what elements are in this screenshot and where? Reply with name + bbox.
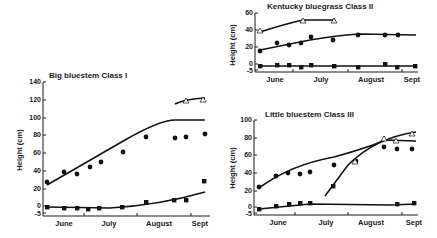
y-tick-label: 40 [245, 26, 253, 33]
y-tick-label: 60 [33, 149, 41, 156]
circle-series-curve [47, 120, 205, 185]
y-tick-label: 40 [33, 167, 41, 174]
axes [254, 120, 418, 215]
x-tick-label: July [313, 75, 329, 84]
x-tick-label: August [146, 219, 172, 228]
triangle-markers [183, 97, 206, 103]
panel-little-bluestem: Little bluestem Class III Height (cm) 10… [228, 110, 423, 227]
x-tick-label: June [55, 219, 73, 228]
circle-markers [258, 33, 401, 54]
chart-title: Big bluestem Class I [49, 71, 127, 80]
x-tick-label: August [358, 75, 384, 84]
growth-charts: Big bluestem Class I Height (cm) 140 120… [0, 0, 437, 238]
square-series-curve [47, 192, 205, 208]
x-tick-label: June [269, 218, 287, 227]
y-tick-label: 140 [29, 78, 41, 85]
x-tick-label: August [358, 218, 384, 227]
triangle-series-curve [325, 132, 416, 196]
triangle-series-curve [260, 20, 333, 32]
x-tick-label: July [101, 219, 117, 228]
x-tick-label: Sept [192, 219, 209, 228]
y-tick-label: 120 [29, 96, 41, 103]
y-tick-label: 60 [245, 9, 253, 16]
y-tick-label: -5 [247, 67, 253, 74]
y-tick-label: -5 [246, 210, 252, 217]
square-series-curve [259, 204, 416, 209]
y-tick-label: 80 [244, 134, 252, 141]
chart-title: Little bluestem Class III [265, 110, 354, 119]
y-tick-label: 100 [240, 116, 252, 123]
y-tick-label: 20 [33, 185, 41, 192]
y-tick-label: -5 [35, 210, 41, 217]
x-tick-label: June [266, 75, 284, 84]
y-tick-label: 0 [249, 60, 253, 67]
y-tick-label: 0 [248, 203, 252, 210]
y-tick-label: 60 [244, 151, 252, 158]
y-tick-label: 40 [244, 169, 252, 176]
x-tick-label: July [318, 218, 334, 227]
y-tick-label: 20 [245, 43, 253, 50]
x-tick-label: Sept [406, 218, 423, 227]
y-axis-label: Height (cm) [228, 147, 237, 189]
y-tick-label: 100 [29, 114, 41, 121]
y-tick-label: 80 [33, 131, 41, 138]
panel-kentucky-bluegrass: Kentucky bluegrass Class II Height (cm) … [228, 2, 421, 84]
circle-series-curve [259, 140, 416, 188]
y-axis-label: Height (cm) [228, 24, 237, 66]
chart-title: Kentucky bluegrass Class II [267, 2, 373, 11]
y-axis-label: Height (cm) [15, 129, 24, 171]
y-tick-label: 20 [244, 187, 252, 194]
panel-big-bluestem: Big bluestem Class I Height (cm) 140 120… [15, 71, 210, 228]
x-tick-label: Sept [404, 75, 421, 84]
circle-series-curve [260, 34, 416, 50]
y-tick-label: 0 [37, 202, 41, 209]
